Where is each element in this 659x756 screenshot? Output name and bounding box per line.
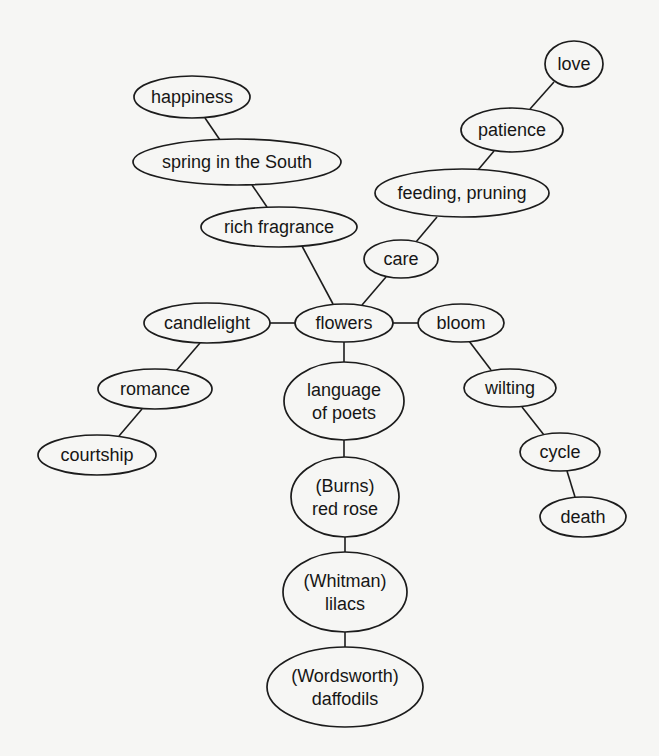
node-label: (Whitman) — [303, 571, 386, 591]
node-label: candlelight — [164, 313, 250, 333]
node-ellipse — [283, 552, 407, 632]
node-label: rich fragrance — [224, 217, 334, 237]
node-spring-in-the-south: spring in the South — [133, 139, 341, 185]
node-ellipse — [284, 362, 404, 440]
node-courtship: courtship — [38, 435, 156, 475]
node-label: wilting — [484, 378, 535, 398]
node-happiness: happiness — [134, 76, 250, 118]
node-death: death — [540, 497, 626, 537]
node-candlelight: candlelight — [144, 303, 270, 343]
node-label: death — [560, 507, 605, 527]
node-label: flowers — [315, 313, 372, 333]
node-care: care — [364, 240, 438, 278]
node-romance: romance — [98, 369, 212, 409]
node-ellipse — [291, 457, 399, 537]
node-label: romance — [120, 379, 190, 399]
node-label: bloom — [436, 313, 485, 333]
node-label: feeding, pruning — [397, 183, 526, 203]
node-cycle: cycle — [520, 433, 600, 471]
node-label: language — [307, 380, 381, 400]
node-label: spring in the South — [162, 152, 312, 172]
node-label: lilacs — [325, 594, 365, 614]
node-label: (Burns) — [315, 476, 374, 496]
node-patience: patience — [461, 108, 563, 152]
concept-map: lovepatiencefeeding, pruninghappinessspr… — [0, 0, 659, 756]
node-burns-red-rose: (Burns)red rose — [291, 457, 399, 537]
node-wilting: wilting — [464, 369, 556, 407]
node-ellipse — [267, 647, 423, 727]
node-label: care — [383, 249, 418, 269]
node-label: love — [557, 54, 590, 74]
node-label: happiness — [151, 87, 233, 107]
node-label: daffodils — [312, 689, 379, 709]
node-feeding-pruning: feeding, pruning — [375, 169, 549, 217]
node-label: of poets — [312, 403, 376, 423]
node-label: patience — [478, 120, 546, 140]
node-label: courtship — [60, 445, 133, 465]
node-language-of-poets: languageof poets — [284, 362, 404, 440]
node-love: love — [545, 41, 603, 87]
node-bloom: bloom — [418, 304, 504, 342]
node-wordsworth-daffodils: (Wordsworth)daffodils — [267, 647, 423, 727]
node-rich-fragrance: rich fragrance — [201, 207, 357, 247]
node-whitman-lilacs: (Whitman)lilacs — [283, 552, 407, 632]
node-label: cycle — [539, 442, 580, 462]
node-label: red rose — [312, 499, 378, 519]
node-flowers: flowers — [295, 304, 393, 342]
node-label: (Wordsworth) — [291, 666, 399, 686]
